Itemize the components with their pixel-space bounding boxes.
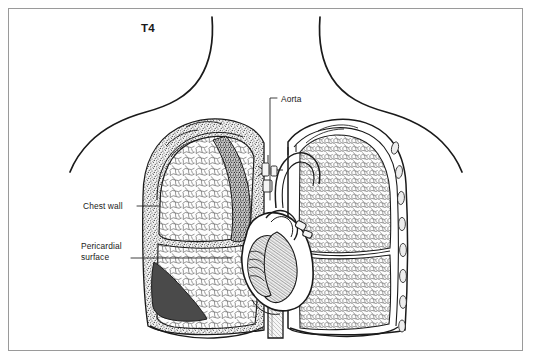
body-outline-group <box>70 17 462 172</box>
figure-root: T4 Chest wall Aorta Pericardialsurface <box>0 0 533 361</box>
label-pericardial-surface: Pericardialsurface <box>81 241 145 262</box>
left-hemithorax <box>143 119 264 338</box>
label-chest-wall: Chest wall <box>83 201 123 212</box>
label-pericardial-line1: Pericardial <box>81 241 122 251</box>
thorax-illustration <box>0 0 533 361</box>
label-aorta: Aorta <box>281 94 302 105</box>
label-pericardial-line2: surface <box>81 252 109 262</box>
right-hemithorax <box>288 119 407 336</box>
page-title: T4 <box>141 23 155 34</box>
lung-right-upper-lobe <box>299 135 391 253</box>
